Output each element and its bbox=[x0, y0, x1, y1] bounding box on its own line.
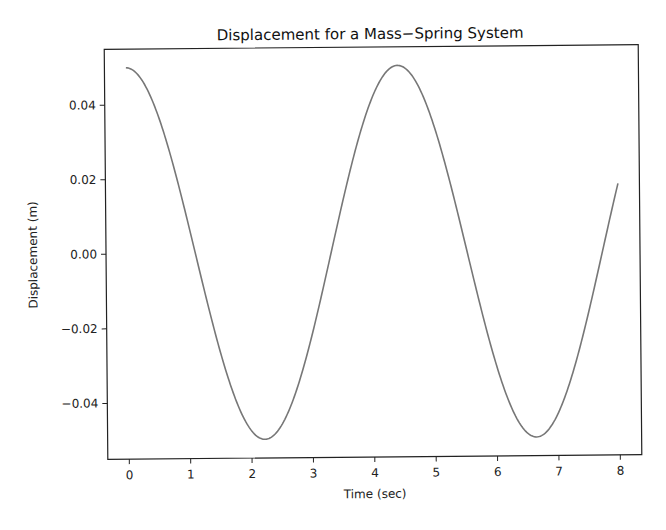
x-tick-label: 1 bbox=[187, 468, 195, 482]
x-tick-label: 5 bbox=[432, 465, 440, 479]
chart: Displacement for a Mass−Spring System 01… bbox=[0, 0, 666, 530]
y-tick-label: 0.02 bbox=[70, 173, 97, 187]
x-axis-label: Time (sec) bbox=[343, 487, 407, 502]
y-tick-label: −0.04 bbox=[61, 396, 98, 410]
y-axis: 0.040.020.00−0.02−0.04 bbox=[59, 98, 108, 411]
x-tick-label: 2 bbox=[248, 467, 256, 481]
x-tick-label: 8 bbox=[617, 464, 625, 478]
x-tick-label: 6 bbox=[494, 465, 502, 479]
x-tick-label: 7 bbox=[555, 464, 563, 478]
y-axis-label: Displacement (m) bbox=[26, 201, 41, 308]
x-tick-label: 0 bbox=[126, 468, 134, 482]
chart-title: Displacement for a Mass−Spring System bbox=[217, 24, 524, 45]
plot-frame bbox=[104, 45, 642, 460]
y-tick-label: −0.02 bbox=[61, 322, 98, 336]
displacement-line bbox=[126, 63, 620, 440]
x-tick-label: 3 bbox=[310, 466, 318, 480]
y-tick-label: 0.00 bbox=[70, 247, 97, 261]
y-tick-label: 0.04 bbox=[69, 98, 96, 112]
x-tick-label: 4 bbox=[371, 466, 379, 480]
